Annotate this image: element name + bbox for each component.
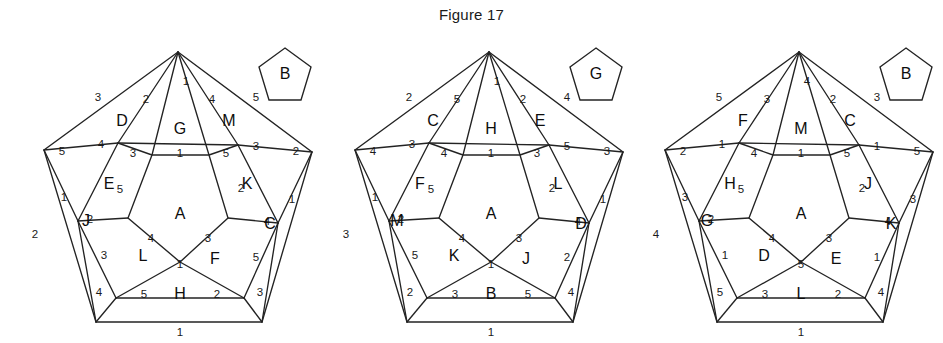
edge-number-lower-right-side: 2 [564,251,570,263]
edge-number-bottom-right-edge: 5 [525,288,531,300]
edge-number-left-corner: 2 [680,145,686,157]
edge-number-right-spoke: 1 [600,193,606,205]
edge-number-bottom-left-corner: 4 [96,286,103,298]
face-label-ring-inner-left: F [415,175,425,192]
edge-number-outer-upper-left: 5 [716,91,722,103]
face-label-ring-inner-right: K [242,175,253,192]
edge-number-right-corner: 2 [293,145,299,157]
edge-number-outer-left-edge: 2 [32,228,38,240]
edge-number-right-spoke: 3 [910,193,916,205]
face-label-ring-inner-right: J [864,175,872,192]
edge-number-left-spoke: 1 [61,191,67,203]
face-label-ring-outer-upper-right: M [222,112,235,129]
edge-number-bottom-left-edge: 3 [452,288,458,300]
edge-number-base: 1 [798,326,804,338]
edge-number-inner-left: 5 [117,183,123,195]
edge-number-inner-top-right: 3 [534,147,540,159]
face-label-ring-outer-right: K [886,215,897,232]
edge-number-inner-top-right: 5 [844,147,850,159]
edge-number-outer-upper-right: 4 [564,91,571,103]
pentagon-net-graph: 152244335413521135245224354311AHFKJLCMBD… [311,30,624,343]
edge-number-outer-upper-left: 2 [406,91,412,103]
edge-number-right-corner: 3 [604,145,610,157]
pentagon-net-graph: 432532511415523342241154324351AMHDEJFGLK… [621,30,934,343]
face-label-ring-inner-bottom-left: L [139,247,148,264]
edge-number-outer-upper-right: 3 [874,91,880,103]
face-label-ring-inner-right: L [554,175,563,192]
edge-number-inner-top-left: 3 [130,147,136,159]
key-pentagon-label: B [280,65,291,82]
face-label-ring-inner-bottom-left: K [449,247,460,264]
edge-number-apex-center: 4 [804,75,811,87]
edge-number-bowtie-left: 4 [459,232,466,244]
edge-number-inner-left: 5 [738,183,744,195]
edge-number-apex-left: 5 [454,93,460,105]
face-label-ring-outer-bottom: B [486,285,497,302]
face-label-ring-inner-top: G [174,120,186,137]
edge-number-bottom-right-corner: 3 [257,286,263,298]
face-label-ring-outer-right: D [575,215,587,232]
edge-number-base: 1 [177,326,183,338]
edge-number-lower-left-side: 5 [412,249,418,261]
face-label-ring-inner-left: H [724,175,736,192]
face-label-ring-inner-bottom-left: D [758,247,770,264]
face-label-ring-outer-left: G [701,212,713,229]
edge-number-apex-left: 3 [764,93,770,105]
edge-number-inner-top-center: 1 [177,147,183,159]
edge-number-inner-top-center: 1 [798,147,804,159]
face-label-ring-inner-top: M [794,120,807,137]
edge-number-bowtie-right: 3 [826,232,832,244]
edge-number-apex-center: 1 [494,75,500,87]
edge-number-left-corner: 4 [370,145,377,157]
edge-number-bottom-left-corner: 2 [407,286,413,298]
edge-number-mid-left: 4 [98,138,105,150]
face-label-ring-inner-bottom-right: J [522,250,530,267]
page-title: Figure 17 [0,6,943,23]
edge-number-bottom-left-edge: 5 [141,288,147,300]
key-pentagon-label: G [590,65,602,82]
face-label-ring-outer-upper-left: F [738,112,748,129]
pentagon-net-graph: 124355243315521124243543524311AGELFKDJHC… [0,30,313,343]
edge-number-bottom-right-edge: 2 [214,288,220,300]
face-label-ring-outer-upper-right: C [844,112,856,129]
edge-number-bowtie-right: 3 [205,232,211,244]
edge-number-left-spoke: 3 [682,191,688,203]
edge-number-right-spoke: 1 [289,193,295,205]
edge-number-base: 1 [488,326,494,338]
face-label-ring-inner-left: E [104,175,115,192]
edge-number-mid-left: 3 [409,138,415,150]
edge-number-bottom-right-corner: 4 [568,286,575,298]
edge-number-apex-center: 1 [183,75,189,87]
diagram-panel-3: 432532511415523342241154324351AMHDEJFGLK… [621,30,934,343]
edge-number-lower-right-side: 5 [253,251,259,263]
face-label-ring-outer-left: J [82,212,90,229]
edge-number-outer-left-edge: 3 [343,228,349,240]
edge-number-inner-top-left: 4 [751,147,758,159]
edge-number-bowtie-center: 1 [488,258,494,270]
face-label-ring-outer-left: M [390,212,403,229]
face-label-ring-inner-bottom-right: E [831,250,842,267]
face-label-ring-outer-upper-left: D [116,112,128,129]
edge-number-bottom-right-corner: 4 [878,286,885,298]
edge-number-bottom-left-corner: 5 [717,286,723,298]
edge-number-outer-upper-right: 5 [253,91,259,103]
edge-number-lower-left-side: 3 [101,249,107,261]
face-label-ring-inner-bottom-right: F [210,250,220,267]
key-pentagon-label: B [901,65,912,82]
edge-number-bowtie-left: 4 [148,232,155,244]
face-label-ring-outer-upper-left: C [427,112,439,129]
edge-number-outer-left-edge: 4 [653,228,660,240]
edge-number-apex-right: 2 [830,93,836,105]
edge-number-bowtie-left: 4 [769,232,776,244]
face-label-center: A [486,205,497,222]
edge-number-lower-right-side: 1 [874,251,880,263]
edge-number-mid-right: 3 [253,140,259,152]
edge-number-mid-left: 1 [719,138,725,150]
edge-number-inner-left: 5 [428,183,434,195]
edge-number-inner-top-left: 4 [441,147,448,159]
edge-number-apex-right: 2 [520,93,526,105]
edge-number-lower-left-side: 1 [722,249,728,261]
face-label-ring-outer-upper-right: E [535,112,546,129]
face-label-ring-outer-bottom: H [174,285,186,302]
edge-number-inner-top-right: 5 [223,147,229,159]
